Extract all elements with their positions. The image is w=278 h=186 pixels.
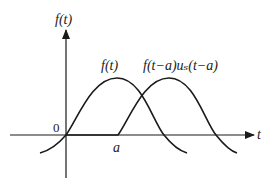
y-axis-label: f(t) [55, 12, 72, 28]
curve-shifted [66, 78, 237, 153]
curve-original-label: f(t) [101, 58, 118, 74]
origin-label: 0 [53, 120, 60, 135]
shift-label: a [113, 140, 120, 155]
t-axis-label: t [257, 127, 262, 142]
curve-shifted-label: f(t−a)uₛ(t−a) [143, 58, 218, 74]
time-shift-diagram: f(t) t 0 a f(t) f(t−a)uₛ(t−a) [0, 0, 278, 186]
